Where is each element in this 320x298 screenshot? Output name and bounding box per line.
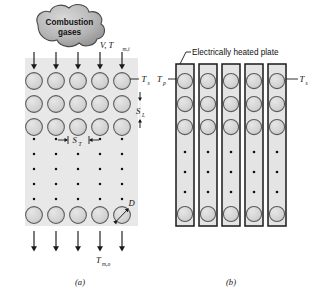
inlet-label-text: V, T <box>100 40 114 50</box>
plate-dot <box>276 171 279 174</box>
tube-circle <box>48 96 65 113</box>
tube-circle <box>92 119 109 136</box>
plate-circle <box>269 96 284 111</box>
plate-circle <box>223 119 238 134</box>
plate-circle <box>246 206 261 221</box>
grid-dot <box>77 183 80 186</box>
tube-circle <box>114 73 131 90</box>
panel-b-caption: (b) <box>226 277 236 287</box>
grid-dot <box>55 183 58 186</box>
plate-dot <box>207 151 210 154</box>
plate-dot <box>230 171 233 174</box>
inlet-label-sub: m,i <box>123 46 130 52</box>
plate-dot <box>253 171 256 174</box>
tube-circle <box>48 207 65 224</box>
plate-dot <box>184 171 187 174</box>
grid-dot <box>55 138 58 141</box>
tube-circle <box>92 207 109 224</box>
plate-dot <box>184 191 187 194</box>
tube-circle <box>70 207 87 224</box>
plate-circle <box>177 96 192 111</box>
tube-rows-top <box>26 73 131 136</box>
tube-circle <box>26 119 43 136</box>
grid-dot <box>33 138 36 141</box>
plate-circle <box>200 96 215 111</box>
plate-circle <box>200 206 215 221</box>
sl-label: S <box>136 106 141 116</box>
grid-dot <box>99 183 102 186</box>
grid-dot <box>55 153 58 156</box>
plate-dot <box>276 151 279 154</box>
grid-dot <box>121 183 124 186</box>
tube-circle <box>26 73 43 90</box>
plate-circle <box>223 206 238 221</box>
tube-circle <box>26 96 43 113</box>
plate-circle <box>269 119 284 134</box>
grid-dot <box>99 138 102 141</box>
grid-dot <box>33 183 36 186</box>
plate-dot <box>230 151 233 154</box>
grid-dot <box>99 198 102 201</box>
cloud-label-line2: gases <box>58 28 82 37</box>
grid-dot <box>121 198 124 201</box>
plate-dot <box>184 151 187 154</box>
plate-circle <box>269 206 284 221</box>
schematic-svg: Combustion gases V, T m,i <box>0 0 320 298</box>
grid-dot <box>121 153 124 156</box>
grid-dot <box>77 198 80 201</box>
plate-dot <box>207 191 210 194</box>
ts-label-sub: s <box>148 80 150 86</box>
plate-circle <box>246 119 261 134</box>
plate-circle <box>246 73 261 88</box>
outlet-label-sub: m,o <box>102 261 110 267</box>
plate-circle <box>177 119 192 134</box>
st-label: S <box>73 135 78 145</box>
grid-dot <box>77 168 80 171</box>
plate-circle <box>246 96 261 111</box>
plate-dot <box>276 191 279 194</box>
tube-circle <box>92 73 109 90</box>
plate-circle <box>177 206 192 221</box>
tube-circle <box>26 207 43 224</box>
plate-circle <box>269 73 284 88</box>
grid-dot <box>99 153 102 156</box>
tube-circle <box>48 119 65 136</box>
tube-circle <box>70 119 87 136</box>
grid-dot <box>55 168 58 171</box>
grid-dot <box>121 168 124 171</box>
plate-circle <box>200 73 215 88</box>
grid-dot <box>121 138 124 141</box>
plate-dot <box>253 151 256 154</box>
tube-circle <box>70 96 87 113</box>
grid-dot <box>33 153 36 156</box>
plate-callout-label: Electrically heated plate <box>192 48 279 57</box>
panel-a-caption: (a) <box>75 277 85 287</box>
plate-circle <box>200 119 215 134</box>
cloud-label-line1: Combustion <box>46 18 94 27</box>
grid-dot <box>55 198 58 201</box>
tube-circle <box>114 96 131 113</box>
plate-circle <box>177 73 192 88</box>
ts-b-label-sub: s <box>306 80 308 86</box>
sl-label-sub: L <box>141 112 145 118</box>
diameter-label: D <box>128 198 136 208</box>
grid-dot <box>77 153 80 156</box>
plate-circle <box>223 73 238 88</box>
plate-dot <box>207 171 210 174</box>
plate-dot <box>253 191 256 194</box>
tube-circle <box>48 73 65 90</box>
figure-root: Combustion gases V, T m,i <box>0 0 320 298</box>
grid-dot <box>33 198 36 201</box>
tube-circle <box>92 96 109 113</box>
plate-dot <box>230 191 233 194</box>
tp-label-sub: p <box>162 80 166 86</box>
tube-circle <box>114 119 131 136</box>
tube-circle <box>70 73 87 90</box>
grid-dot <box>99 168 102 171</box>
grid-dot <box>33 168 36 171</box>
plate-circle <box>223 96 238 111</box>
